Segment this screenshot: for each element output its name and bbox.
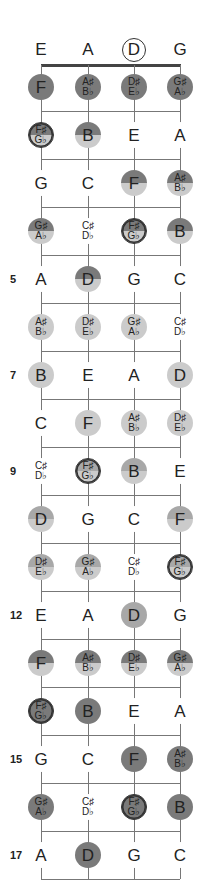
enharmonic-label: G♯A♭ [35,221,48,241]
fret-line [41,303,180,304]
note-label: D [82,271,94,288]
note-label: E [35,607,46,624]
note-marker: G♯A♭ [28,794,54,820]
enharmonic-label: G♯A♭ [128,317,141,337]
note-marker: D [28,506,54,532]
open-string-d: D [122,38,146,62]
note-label: C [128,511,140,528]
note-label: D [174,367,186,384]
fret-line [41,351,180,352]
note-marker: F♯G♭ [167,554,193,580]
note-label: F [36,79,46,96]
fret-line [41,111,180,112]
note-label: G [34,175,47,192]
enharmonic-label: A♯B♭ [35,317,47,337]
note-marker: A [167,698,193,724]
fret-line [41,783,180,784]
note-label: E [174,463,185,480]
note-marker: C [28,410,54,436]
note-marker: B [167,218,193,244]
enharmonic-label: C♯D♭ [35,461,47,481]
note-marker: D♯E♭ [28,554,54,580]
note-marker: F [75,410,101,436]
note-label: G [173,607,186,624]
note-label: B [82,703,93,720]
note-marker: C [167,266,193,292]
enharmonic-label: D♯E♭ [128,653,140,673]
enharmonic-label: A♯B♭ [174,173,186,193]
note-label: C [82,751,94,768]
nut [41,64,181,67]
note-label: E [128,703,139,720]
enharmonic-label: G♯A♭ [174,653,187,673]
note-label: G [127,271,140,288]
note-label: B [35,367,46,384]
note-marker: G♯A♭ [121,314,147,340]
note-label: C [174,271,186,288]
fret-number: 12 [10,608,24,622]
fret-number: 7 [10,368,24,382]
fret-line [41,639,180,640]
note-label: A [35,847,46,864]
note-marker: C♯D♭ [167,314,193,340]
note-label: C [174,847,186,864]
fret-number: 5 [10,272,24,286]
note-marker: A♯B♭ [121,410,147,436]
note-marker: F♯G♭ [121,794,147,820]
note-marker: C [167,842,193,868]
note-marker: E [167,458,193,484]
note-marker: C♯D♭ [75,794,101,820]
fret-number: 9 [10,464,24,478]
note-marker: B [75,698,101,724]
note-marker: B [28,362,54,388]
enharmonic-label: F♯G♭ [174,557,187,577]
fret-line [41,831,180,832]
fret-line [41,495,180,496]
note-label: D [35,511,47,528]
open-string-a: A [76,38,100,62]
note-marker: G [28,746,54,772]
fret-line [41,447,180,448]
note-label: A [128,367,139,384]
enharmonic-label: D♯E♭ [128,77,140,97]
note-marker: C♯D♭ [121,554,147,580]
note-marker: E [121,122,147,148]
note-label: B [82,127,93,144]
note-label: B [174,799,185,816]
note-label: C [35,415,47,432]
note-marker: G♯A♭ [28,218,54,244]
enharmonic-label: G♯A♭ [35,797,48,817]
note-marker: D [121,602,147,628]
fret-line [41,735,180,736]
note-marker: F [121,746,147,772]
note-marker: E [121,698,147,724]
note-label: F [175,511,185,528]
note-label: E [82,367,93,384]
note-marker: C♯D♭ [28,458,54,484]
enharmonic-label: A♯B♭ [82,77,94,97]
note-marker: F♯G♭ [28,122,54,148]
note-label: B [128,463,139,480]
note-label: G [81,511,94,528]
enharmonic-label: C♯D♭ [174,317,186,337]
note-marker: G [28,170,54,196]
note-label: F [83,415,93,432]
note-label: E [128,127,139,144]
note-marker: E [28,602,54,628]
fret-line [41,591,180,592]
enharmonic-label: D♯E♭ [82,317,94,337]
enharmonic-label: F♯G♭ [128,797,141,817]
note-label: G [127,847,140,864]
fret-number: 15 [10,752,24,766]
note-marker: A♯B♭ [28,314,54,340]
note-marker: A [121,362,147,388]
note-marker: G♯A♭ [75,554,101,580]
enharmonic-label: D♯E♭ [35,557,47,577]
enharmonic-label: F♯G♭ [82,461,95,481]
note-marker: F♯G♭ [28,698,54,724]
enharmonic-label: C♯D♭ [128,557,140,577]
note-marker: C♯D♭ [75,218,101,244]
note-marker: G♯A♭ [167,74,193,100]
note-label: G [34,751,47,768]
note-marker: A♯B♭ [167,746,193,772]
